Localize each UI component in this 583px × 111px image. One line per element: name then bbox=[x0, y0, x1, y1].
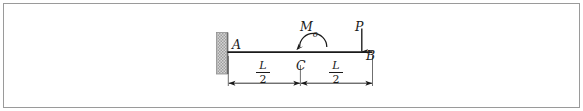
wall-hatched-body bbox=[217, 33, 228, 75]
force-load-label: P bbox=[355, 21, 363, 34]
right-span-numerator: L bbox=[329, 60, 343, 72]
left-span-numerator: L bbox=[256, 60, 270, 72]
point-label-c: C bbox=[296, 60, 306, 73]
figure-canvas: A B C Mo P L 2 L 2 bbox=[0, 0, 583, 111]
right-span-denominator: 2 bbox=[329, 74, 343, 86]
dimension-label-left-span: L 2 bbox=[256, 60, 270, 85]
point-label-a: A bbox=[232, 39, 241, 52]
beam-diagram bbox=[0, 0, 583, 111]
moment-load-label: Mo bbox=[300, 21, 318, 36]
left-span-denominator: 2 bbox=[256, 74, 270, 86]
moment-symbol: M bbox=[300, 19, 313, 34]
moment-subscript: o bbox=[313, 29, 318, 39]
dimension-label-right-span: L 2 bbox=[329, 60, 343, 85]
point-label-b: B bbox=[366, 50, 375, 63]
fixed-wall-support bbox=[217, 33, 228, 75]
